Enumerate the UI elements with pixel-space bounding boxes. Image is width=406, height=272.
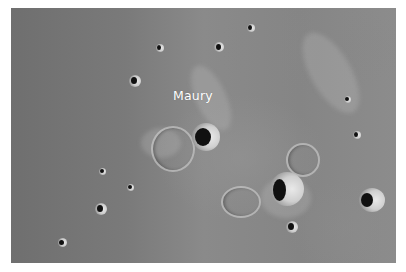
crater: [214, 42, 224, 52]
crater: [95, 203, 107, 215]
crater: [156, 44, 164, 52]
crater-label-maury: Maury: [173, 88, 213, 103]
maury-crater: [192, 123, 220, 151]
crater: [286, 221, 298, 233]
crater: [359, 188, 385, 212]
crater: [344, 96, 351, 103]
crater: [129, 75, 141, 87]
crater: [127, 184, 134, 191]
crater: [247, 24, 255, 32]
crater: [58, 238, 67, 247]
degraded-crater: [151, 126, 195, 172]
degraded-crater: [221, 186, 261, 218]
crater: [270, 172, 304, 206]
lunar-surface-photo: [11, 8, 396, 263]
crater: [353, 131, 361, 139]
ridge: [291, 24, 371, 122]
crater: [99, 168, 106, 175]
